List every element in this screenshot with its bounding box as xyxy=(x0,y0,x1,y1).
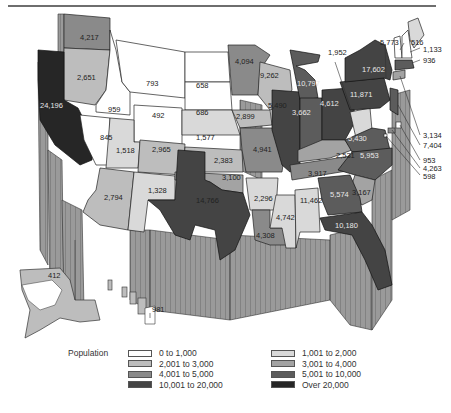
label-kentucky: 2,531 xyxy=(336,151,355,160)
legend-swatch xyxy=(128,371,152,378)
legend: Population 0 to 1,000 2,001 to 3,000 4,0… xyxy=(68,348,398,408)
legend-label: 3,001 to 4,000 xyxy=(302,359,356,369)
label-pennsylvania: 11,871 xyxy=(350,90,372,99)
label-ohio: 4,612 xyxy=(320,99,339,108)
label-new-jersey: 7,404 xyxy=(423,141,442,150)
legend-swatch xyxy=(271,371,295,378)
label-iowa: 2,899 xyxy=(236,112,255,121)
label-washington: 4,217 xyxy=(80,33,99,42)
label-colorado: 2,965 xyxy=(152,145,171,154)
legend-item: 3,001 to 4,000 xyxy=(271,359,361,369)
legend-item: 1,001 to 2,000 xyxy=(271,348,361,358)
label-illinois: 5,490 xyxy=(268,101,287,110)
legend-swatch xyxy=(128,350,152,357)
legend-column-right: 1,001 to 2,000 3,001 to 4,000 5,001 to 1… xyxy=(271,348,361,390)
legend-label: 5,001 to 10,000 xyxy=(302,369,361,379)
label-dc: 598 xyxy=(423,172,436,181)
label-georgia: 5,574 xyxy=(330,190,349,199)
legend-item: 4,001 to 5,000 xyxy=(128,369,223,379)
legend-item: 5,001 to 10,000 xyxy=(271,369,361,379)
legend-label: 0 to 1,000 xyxy=(159,348,197,358)
legend-item: 10,001 to 20,000 xyxy=(128,380,223,390)
label-virginia: 5,430 xyxy=(348,134,367,143)
label-arizona: 2,794 xyxy=(104,193,123,202)
legend-swatch xyxy=(128,360,152,367)
legend-label: 10,001 to 20,000 xyxy=(159,380,223,390)
label-idaho: 959 xyxy=(108,105,121,114)
label-alabama: 11,462 xyxy=(300,196,322,205)
label-nevada: 845 xyxy=(100,133,113,142)
label-wyoming: 492 xyxy=(152,111,165,120)
label-tennessee: 3,917 xyxy=(308,169,327,178)
label-nebraska: 1,577 xyxy=(196,133,215,142)
legend-label: 1,001 to 2,000 xyxy=(302,348,356,358)
label-wisconsin: 9,262 xyxy=(260,71,279,80)
label-louisiana: 4,308 xyxy=(256,231,275,240)
label-new-mexico: 1,328 xyxy=(148,186,167,195)
legend-swatch xyxy=(128,381,152,388)
state-new-jersey[interactable] xyxy=(390,88,398,115)
label-florida: 10,180 xyxy=(335,221,358,230)
us-population-map: 4,217 2,651 24,196 959 845 793 492 1,518… xyxy=(0,0,451,345)
legend-column-left: 0 to 1,000 2,001 to 3,000 4,001 to 5,000… xyxy=(128,348,223,390)
state-massachusetts[interactable] xyxy=(395,60,414,70)
label-minnesota: 4,094 xyxy=(235,57,254,66)
label-alaska: 412 xyxy=(48,271,61,280)
label-oregon: 2,651 xyxy=(77,73,96,82)
label-connecticut: 3,134 xyxy=(423,131,442,140)
legend-item: Over 20,000 xyxy=(271,380,361,390)
label-west-virginia: 1,952 xyxy=(328,48,347,57)
label-new-york: 17,602 xyxy=(362,65,385,74)
label-new-hampshire: 5,773 xyxy=(380,38,399,47)
state-connecticut[interactable] xyxy=(393,70,405,80)
legend-label: Over 20,000 xyxy=(302,380,349,390)
label-kansas: 2,383 xyxy=(214,156,233,165)
legend-item: 0 to 1,000 xyxy=(128,348,223,358)
label-hawaii: 981 xyxy=(152,305,165,314)
legend-swatch xyxy=(271,350,295,357)
label-mississippi: 4,742 xyxy=(276,213,295,222)
label-south-carolina: 3,167 xyxy=(352,188,371,197)
state-nebraska[interactable] xyxy=(182,110,240,135)
legend-item: 2,001 to 3,000 xyxy=(128,359,223,369)
state-north-dakota[interactable] xyxy=(185,52,230,82)
label-oklahoma: 3,100 xyxy=(222,173,241,182)
label-north-dakota: 658 xyxy=(196,81,209,90)
label-north-carolina: 5,953 xyxy=(360,151,379,160)
label-arkansas: 2,296 xyxy=(254,194,273,203)
label-michigan: 10,797 xyxy=(297,79,320,88)
label-utah: 1,518 xyxy=(116,146,135,155)
label-vermont: 516 xyxy=(411,38,424,47)
state-washington[interactable] xyxy=(64,14,110,50)
label-massachusetts: 936 xyxy=(423,56,436,65)
legend-title: Population xyxy=(68,348,108,358)
legend-label: 2,001 to 3,000 xyxy=(159,359,213,369)
label-south-dakota: 686 xyxy=(196,108,209,117)
label-maine: 1,133 xyxy=(423,45,442,54)
label-texas: 14,766 xyxy=(196,196,219,205)
label-montana: 793 xyxy=(146,79,159,88)
legend-swatch xyxy=(271,360,295,367)
legend-swatch xyxy=(271,381,295,388)
legend-label: 4,001 to 5,000 xyxy=(159,369,213,379)
label-california: 24,196 xyxy=(40,101,63,110)
label-missouri: 4,941 xyxy=(253,145,272,154)
label-indiana: 3,662 xyxy=(292,108,311,117)
